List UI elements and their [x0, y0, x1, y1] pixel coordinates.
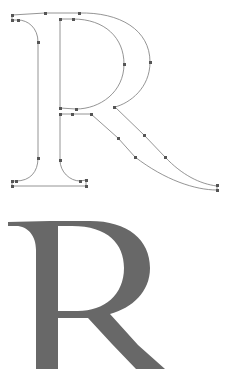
inner-bowl-contour — [60, 19, 124, 109]
glyph-diagram — [0, 0, 229, 369]
outline-glyph-r — [12, 13, 217, 190]
control-points — [11, 12, 219, 192]
outer-contour — [12, 13, 217, 190]
filled-glyph-r — [8, 221, 165, 369]
